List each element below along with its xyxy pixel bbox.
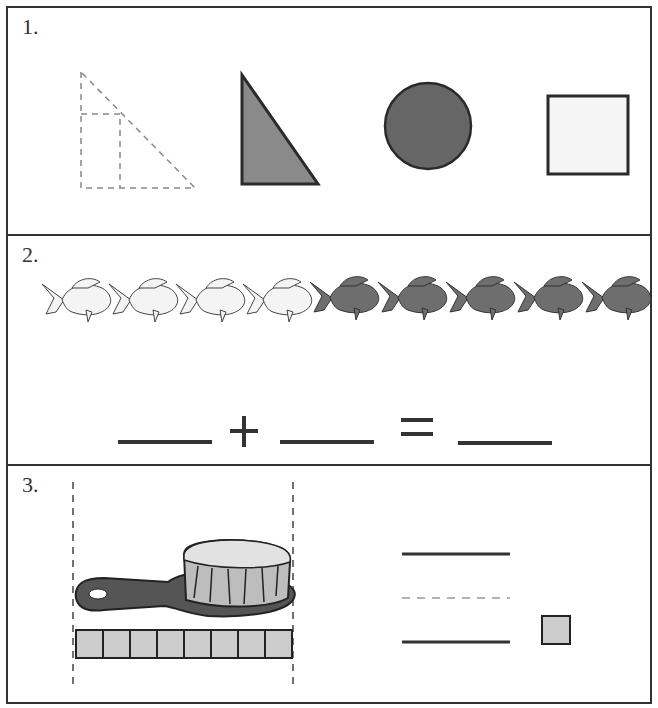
circle-icon bbox=[385, 83, 471, 169]
gray-fish-icon bbox=[514, 277, 583, 320]
white-fish-icon bbox=[42, 279, 111, 322]
brush-icon bbox=[76, 540, 295, 616]
gray-fish-icon bbox=[582, 277, 651, 320]
writing-lines bbox=[402, 554, 510, 642]
shapes-illustration bbox=[8, 8, 654, 238]
square-icon bbox=[548, 96, 628, 174]
unit-square-icon bbox=[542, 616, 570, 644]
white-fish-icon bbox=[176, 279, 245, 322]
measurement-illustration bbox=[8, 466, 654, 706]
problem-3-panel: 3. bbox=[6, 464, 652, 704]
gray-fish-icon bbox=[446, 277, 515, 320]
white-fish-group bbox=[42, 279, 312, 322]
gray-fish-icon bbox=[310, 277, 379, 320]
gray-triangle-icon bbox=[242, 75, 318, 184]
gray-fish-group bbox=[310, 277, 651, 320]
problem-2-panel: 2. bbox=[6, 234, 652, 466]
unit-squares-row bbox=[76, 630, 292, 658]
white-fish-icon bbox=[109, 279, 178, 322]
gray-fish-icon bbox=[378, 277, 447, 320]
problem-1-panel: 1. bbox=[6, 6, 652, 236]
dashed-triangle-icon bbox=[81, 72, 195, 188]
fish-equation bbox=[8, 236, 654, 468]
white-fish-icon bbox=[243, 279, 312, 322]
